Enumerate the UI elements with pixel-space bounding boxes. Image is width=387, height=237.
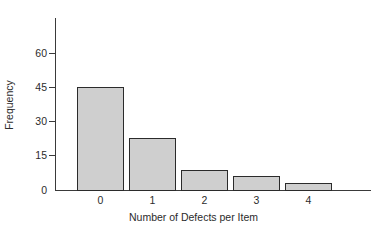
y-tick-mark-15	[49, 155, 56, 156]
y-axis-title: Frequency	[3, 80, 15, 130]
bar-1	[129, 138, 176, 192]
bar-2	[181, 170, 228, 192]
x-axis-title: Number of Defects per Item	[0, 211, 387, 223]
y-tick-label-0: 0	[7, 185, 47, 196]
y-axis-line	[55, 18, 56, 191]
y-tick-mark-45	[49, 87, 56, 88]
x-tick-label-4: 4	[285, 195, 332, 206]
bar-0	[77, 87, 124, 191]
y-tick-label-60: 60	[7, 48, 47, 59]
y-tick-mark-60	[49, 53, 56, 54]
bar-4	[285, 183, 332, 191]
x-tick-label-0: 0	[77, 195, 124, 206]
y-tick-label-15: 15	[7, 150, 47, 161]
y-tick-mark-30	[49, 121, 56, 122]
x-tick-label-1: 1	[129, 195, 176, 206]
bar-3	[233, 176, 280, 191]
x-tick-label-3: 3	[233, 195, 280, 206]
x-tick-label-2: 2	[181, 195, 228, 206]
histogram-figure: 60 45 30 15 0 0 1 2 3 4 Number of Defect…	[0, 0, 387, 237]
